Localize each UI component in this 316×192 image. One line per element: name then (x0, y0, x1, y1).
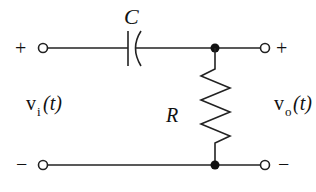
output-voltage-label: v o (t) (274, 92, 312, 119)
input-plus-sign: + (15, 37, 26, 59)
input-voltage-label: v i (t) (26, 92, 62, 119)
svg-text:(t): (t) (43, 92, 62, 115)
input-positive-terminal (39, 44, 48, 53)
output-positive-terminal (261, 44, 270, 53)
svg-text:v: v (274, 92, 284, 114)
capacitor-label: C (124, 4, 139, 29)
rc-circuit-diagram: + C + R − − v i (t) v o (t) (0, 0, 316, 192)
bottom-junction-node (211, 161, 220, 170)
svg-text:v: v (26, 92, 36, 114)
svg-text:o: o (285, 104, 292, 119)
resistor (201, 48, 230, 165)
output-minus-sign: − (278, 153, 289, 175)
output-negative-terminal (261, 161, 270, 170)
svg-text:(t): (t) (293, 92, 312, 115)
resistor-label: R (165, 104, 178, 126)
svg-text:i: i (37, 104, 41, 119)
input-minus-sign: − (16, 153, 27, 175)
output-plus-sign: + (276, 37, 287, 59)
input-negative-terminal (39, 161, 48, 170)
